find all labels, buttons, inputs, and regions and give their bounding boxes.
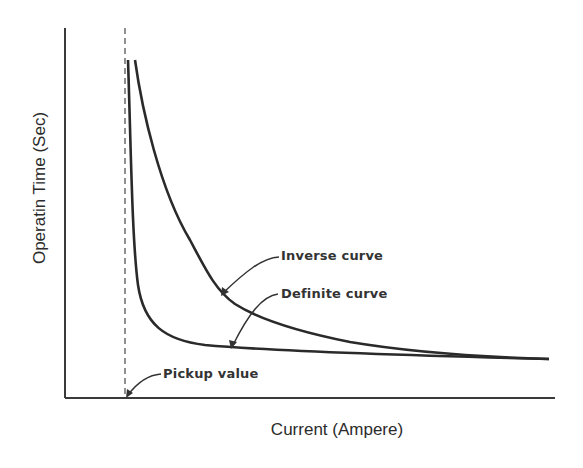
pickup-arrow [128,374,161,395]
plot-area [0,0,583,468]
relay-characteristic-diagram: Operatin Time (Sec) Current (Ampere) Inv… [0,0,583,468]
inverse-curve-label: Inverse curve [281,248,383,263]
definite-arrow [233,294,278,345]
inverse-arrow [223,257,279,293]
x-axis-label: Current (Ampere) [271,420,403,440]
inverse-curve [135,60,549,359]
definite-curve [128,60,549,359]
pickup-value-label: Pickup value [163,366,259,381]
y-axis-label: Operatin Time (Sec) [30,112,50,264]
definite-curve-label: Definite curve [281,286,387,301]
